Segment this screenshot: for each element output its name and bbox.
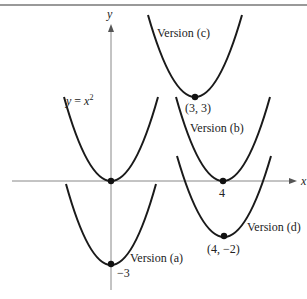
label-version-c: Version (c) xyxy=(157,26,210,40)
x-axis-arrow-icon xyxy=(289,178,297,184)
label-base: y = x2 xyxy=(65,93,93,108)
vertex-point-a xyxy=(108,261,114,267)
parabola-translations-figure: x y y = x2 Version (c) (3, 3) Version (b… xyxy=(0,0,307,299)
vertex-point-base xyxy=(108,178,114,184)
vertex-label-c: (3, 3) xyxy=(185,101,211,115)
vertex-label-a: −3 xyxy=(117,266,130,280)
y-axis-label: y xyxy=(106,7,113,21)
y-axis-arrow-icon xyxy=(108,24,114,32)
label-version-b: Version (b) xyxy=(190,121,244,135)
label-version-d: Version (d) xyxy=(247,220,301,234)
label-version-a: Version (a) xyxy=(130,251,183,265)
curves xyxy=(64,15,271,265)
x-axis-label: x xyxy=(300,174,307,188)
vertex-point-b xyxy=(220,178,226,184)
vertex-point-c xyxy=(192,94,198,100)
vertex-label-b: 4 xyxy=(219,186,225,200)
vertex-label-d: (4, −2) xyxy=(207,242,240,256)
vertex-point-d xyxy=(221,233,227,239)
